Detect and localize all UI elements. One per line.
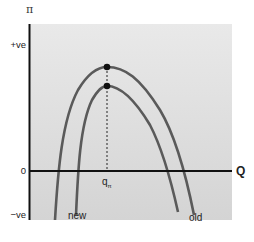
curve-label-new: new [68,211,86,221]
y-axis-title: π [26,4,33,15]
curve-label-old: old [189,213,202,223]
y-tick-negative: −ve [2,210,26,220]
curve-new [76,86,178,215]
peak-dot-old [104,64,111,71]
chart-svg [0,0,254,242]
y-tick-zero: 0 [2,166,26,176]
peak-dot-new [104,83,111,90]
y-tick-positive: +ve [2,40,26,50]
q-pi-label: qπ [102,177,112,189]
x-axis-title: Q [236,165,245,177]
q-pi-sub: π [108,183,112,189]
